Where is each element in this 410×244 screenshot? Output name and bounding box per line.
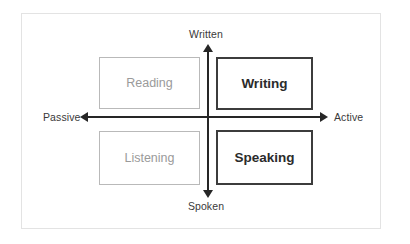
horizontal-axis-line: [88, 116, 320, 118]
axis-label-passive: Passive: [43, 111, 80, 123]
quadrant-box-reading: Reading: [99, 57, 200, 109]
vertical-axis-line: [207, 50, 209, 192]
arrow-down-icon: [203, 190, 213, 198]
quadrant-box-speaking: Speaking: [216, 130, 313, 185]
axis-label-written: Written: [2, 28, 410, 40]
language-skills-quadrant-diagram: Written Spoken Passive Active Reading Wr…: [0, 0, 410, 244]
quadrant-label-writing: Writing: [241, 76, 287, 91]
quadrant-label-speaking: Speaking: [234, 150, 294, 165]
quadrant-label-reading: Reading: [126, 76, 173, 90]
quadrant-box-listening: Listening: [99, 131, 200, 185]
quadrant-box-writing: Writing: [216, 57, 313, 110]
arrow-right-icon: [320, 112, 328, 122]
quadrant-label-listening: Listening: [124, 151, 174, 165]
axis-label-spoken: Spoken: [2, 200, 410, 212]
arrow-left-icon: [80, 112, 88, 122]
arrow-up-icon: [203, 44, 213, 52]
axis-label-active: Active: [334, 111, 363, 123]
